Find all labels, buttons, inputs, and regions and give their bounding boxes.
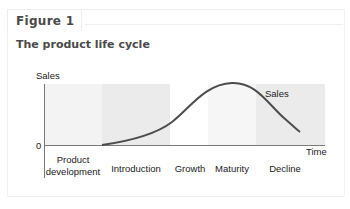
stage-maturity: Maturity: [215, 163, 249, 174]
stage-product-development-line2: development: [46, 166, 101, 177]
stage-decline: Decline: [269, 163, 301, 174]
shade-introduction: [102, 84, 170, 145]
curve-label: Sales: [265, 88, 289, 99]
shade-product-development: [45, 84, 102, 145]
x-axis-label: Time: [306, 146, 327, 157]
stage-growth: Growth: [175, 163, 206, 174]
shade-maturity: [208, 84, 256, 145]
stage-product-development-line1: Product: [57, 154, 90, 165]
life-cycle-chart: Sales 0 Time Sales Product development I…: [0, 0, 350, 209]
y-axis-label: Sales: [36, 70, 60, 81]
stage-introduction: Introduction: [111, 163, 161, 174]
zero-tick: 0: [36, 140, 41, 151]
